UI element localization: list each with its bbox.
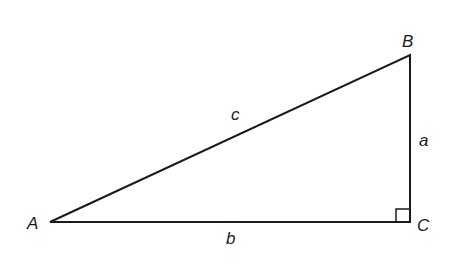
triangle-abc xyxy=(50,55,410,222)
vertex-label-a: A xyxy=(27,215,38,232)
vertex-label-b: B xyxy=(402,33,413,50)
right-angle-marker xyxy=(396,209,410,222)
side-label-c: c xyxy=(231,106,240,123)
vertex-label-c: C xyxy=(417,217,429,234)
side-label-b: b xyxy=(226,230,235,247)
triangle-diagram xyxy=(0,0,452,268)
side-label-a: a xyxy=(419,132,428,149)
